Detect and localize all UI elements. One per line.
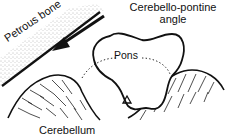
pons-region [82, 33, 184, 109]
label-cerebellum: Cerebellum [39, 124, 95, 136]
label-cpa-line1: Cerebello-pontine [128, 1, 218, 13]
cerebellum-left [8, 75, 100, 120]
label-cerebello-pontine-angle: Cerebello-pontine angle [128, 1, 218, 25]
label-cpa-line2: angle [128, 13, 218, 25]
label-pons: Pons [114, 49, 138, 61]
petrous-bone-region [0, 4, 104, 86]
